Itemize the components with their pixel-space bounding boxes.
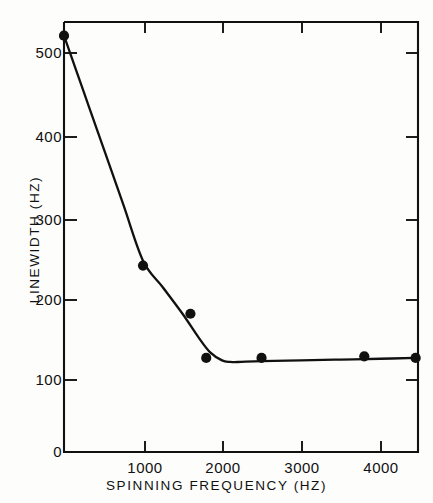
chart-plot: [0, 0, 433, 503]
data-point-markers: [59, 31, 421, 364]
figure-canvas: 500 400 300 200 100 0 1000 2000 3000 400…: [0, 0, 433, 503]
data-point: [256, 353, 266, 363]
fitted-curve: [64, 36, 416, 362]
y-axis-title: LINEWIDTH (HZ): [27, 160, 42, 320]
plot-frame: [64, 22, 418, 452]
data-point: [59, 31, 69, 41]
data-point: [201, 353, 211, 363]
x-tick-label-3000: 3000: [272, 459, 332, 476]
y-tick-label-500: 500: [26, 44, 62, 61]
x-tick-label-1000: 1000: [115, 459, 175, 476]
data-point: [185, 309, 195, 319]
y-tick-label-0: 0: [26, 443, 62, 460]
y-tick-label-100: 100: [26, 371, 62, 388]
curve-line: [64, 36, 416, 362]
y-axis-ticks-left: [64, 53, 77, 380]
x-tick-label-4000: 4000: [351, 459, 411, 476]
x-tick-label-2000: 2000: [193, 459, 253, 476]
x-axis-ticks-top: [145, 22, 381, 33]
x-axis-title: SPINNING FREQUENCY (HZ): [0, 478, 433, 493]
y-tick-label-400: 400: [26, 128, 62, 145]
data-point: [138, 260, 148, 270]
y-axis-ticks-right: [406, 53, 418, 380]
axis-box: [64, 22, 418, 452]
x-axis-ticks-bottom: [145, 441, 381, 452]
data-point: [359, 351, 369, 361]
data-point: [411, 353, 421, 363]
